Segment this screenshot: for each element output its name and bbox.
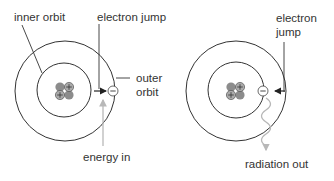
energy-in-label: energy in: [83, 151, 130, 163]
electron-jump-label-1: electron: [276, 12, 317, 24]
inner-orbit: [208, 62, 264, 118]
atom-diagrams: inner orbit electron jump outer orbit en…: [0, 0, 334, 181]
radiation-wave: [262, 98, 271, 150]
electron-jump-label-2: jump: [275, 26, 301, 38]
left-atom: [15, 24, 130, 146]
inner-orbit: [37, 63, 91, 117]
inner-orbit-label: inner orbit: [14, 11, 66, 23]
outer-orbit-label-2: orbit: [136, 86, 159, 98]
outer-orbit-label-1: outer: [136, 72, 162, 84]
nucleus: [226, 82, 244, 99]
outer-orbit: [186, 41, 286, 141]
electron-jump-label: electron jump: [97, 11, 166, 23]
radiation-out-label: radiation out: [245, 158, 309, 170]
right-atom: [186, 41, 286, 150]
nucleus: [55, 82, 73, 99]
